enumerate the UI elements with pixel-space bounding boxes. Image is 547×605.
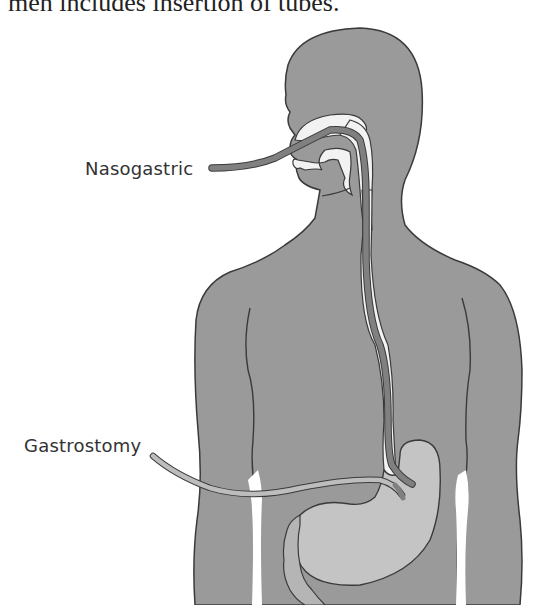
nasogastric-label: Nasogastric bbox=[85, 158, 193, 179]
gastrostomy-label: Gastrostomy bbox=[24, 435, 141, 456]
body-diagram bbox=[0, 0, 547, 605]
